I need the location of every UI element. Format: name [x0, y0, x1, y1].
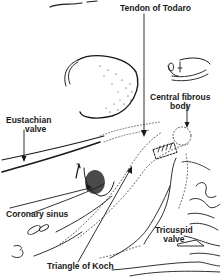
upper-right-structure — [168, 58, 210, 81]
label-text-line-2: valve — [155, 235, 193, 244]
label-tendon-of-todaro: Tendon of Todaro — [120, 4, 191, 13]
label-eustachian-valve: Eustachian valve — [6, 116, 51, 134]
label-text: Coronary sinus — [6, 209, 68, 219]
top-stroke — [50, 1, 97, 7]
fossa-ovalis — [65, 56, 138, 118]
label-triangle-of-koch: Triangle of Koch — [47, 262, 114, 271]
label-text-line-2: body — [150, 102, 210, 111]
label-coronary-sinus: Coronary sinus — [6, 210, 68, 219]
label-text: Tendon of Todaro — [120, 3, 191, 13]
label-text: Triangle of Koch — [47, 261, 114, 271]
label-central-fibrous-body: Central fibrous body — [150, 93, 210, 111]
central-fibrous-body-shape — [153, 127, 191, 159]
label-text-line-2: valve — [6, 125, 51, 134]
label-tricuspid-valve: Tricuspid valve — [155, 226, 193, 244]
coronary-sinus-ostium — [76, 164, 114, 196]
